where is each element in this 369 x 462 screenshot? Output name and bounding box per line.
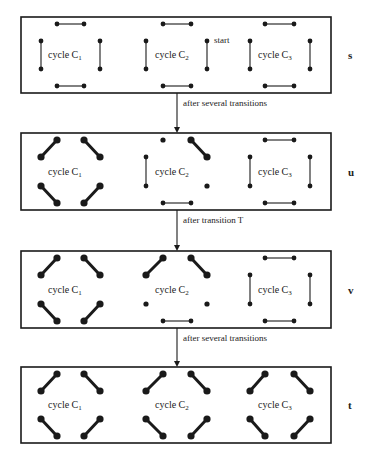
vertex-dot	[53, 370, 60, 377]
vertex-dot	[55, 22, 60, 27]
vertex-dot	[96, 153, 103, 160]
cycle-2: cycle C2	[144, 22, 210, 89]
vertex-dot	[96, 271, 103, 278]
vertex-dot	[96, 300, 103, 307]
vertex-dot	[205, 67, 210, 72]
cycle-3: cycle C3	[248, 22, 313, 89]
vertex-dot	[189, 319, 194, 324]
vertex-dot	[189, 22, 194, 27]
cycle-label: cycle C2	[155, 284, 189, 297]
cycle-label: cycle C1	[48, 399, 82, 412]
vertex-dot	[205, 39, 210, 44]
arrowhead-icon	[174, 127, 180, 133]
vertex-dot	[263, 319, 268, 324]
vertex-dot	[292, 138, 297, 143]
state-panel-u: cycle C1cycle C2cycle C3u	[21, 133, 354, 210]
vertex-dot	[80, 254, 87, 261]
vertex-dot	[39, 39, 44, 44]
vertex-dot	[80, 432, 87, 439]
vertex-dot	[161, 22, 166, 27]
vertex-dot	[37, 182, 44, 189]
vertex-dot	[53, 317, 60, 324]
state-label-u: u	[348, 166, 354, 178]
vertex-dot	[290, 432, 297, 439]
vertex-dot	[80, 317, 87, 324]
vertex-dot	[160, 137, 165, 142]
transition-label: after transition T	[183, 215, 244, 225]
start-annotation: start	[214, 35, 230, 45]
vertex-dot	[261, 432, 268, 439]
vertex-dot	[82, 22, 87, 27]
vertex-dot	[53, 432, 60, 439]
vertex-dot	[142, 415, 149, 422]
cycle-1: cycle C1	[37, 254, 103, 324]
vertex-dot	[308, 184, 313, 189]
vertex-dot	[144, 155, 149, 160]
vertex-dot	[37, 153, 44, 160]
vertex-dot	[187, 136, 194, 143]
vertex-dot	[82, 84, 87, 89]
vertex-dot	[263, 256, 268, 261]
vertex-dot	[248, 67, 253, 72]
vertex-dot	[161, 201, 166, 206]
vertex-dot	[96, 182, 103, 189]
vertex-dot	[263, 138, 268, 143]
vertex-dot	[80, 199, 87, 206]
cycle-label: cycle C3	[258, 284, 292, 297]
vertex-dot	[203, 415, 210, 422]
vertex-dot	[53, 254, 60, 261]
vertex-dot	[37, 300, 44, 307]
matching-edge-thick	[146, 258, 163, 275]
cycle-1: cycle C1	[37, 370, 103, 439]
state-label-t: t	[348, 399, 352, 411]
vertex-dot	[37, 271, 44, 278]
vertex-dot	[308, 155, 313, 160]
vertex-dot	[80, 370, 87, 377]
cycle-3: cycle C3	[246, 370, 313, 439]
vertex-dot	[96, 415, 103, 422]
transition-arrow: after transition T	[174, 210, 244, 251]
vertex-dot	[306, 415, 313, 422]
vertex-dot	[144, 67, 149, 72]
state-label-v: v	[348, 284, 354, 296]
arrowhead-icon	[174, 361, 180, 367]
cycle-transition-diagram: cycle C1cycle C2cycle C3startscycle C1cy…	[0, 0, 369, 462]
vertex-dot	[37, 387, 44, 394]
state-label-s: s	[348, 49, 353, 61]
cycle-label: cycle C1	[48, 49, 82, 62]
matching-edge-thick	[146, 419, 163, 436]
cycle-label: cycle C3	[258, 49, 292, 62]
cycle-2: cycle C2	[144, 136, 211, 205]
vertex-dot	[290, 370, 297, 377]
transition-label: after several transitions	[183, 333, 267, 343]
vertex-dot	[161, 319, 166, 324]
arrowhead-icon	[174, 245, 180, 251]
vertex-dot	[203, 153, 210, 160]
vertex-dot	[261, 370, 268, 377]
cycle-1: cycle C1	[37, 136, 103, 206]
cycle-3: cycle C3	[248, 256, 313, 324]
vertex-dot	[204, 183, 209, 188]
vertex-dot	[159, 432, 166, 439]
cycle-label: cycle C2	[155, 49, 189, 62]
vertex-dot	[246, 415, 253, 422]
transition-arrow: after several transitions	[174, 93, 267, 133]
matching-edge-thick	[146, 374, 163, 391]
vertex-dot	[292, 319, 297, 324]
state-panel-t: cycle C1cycle C2cycle C3t	[21, 367, 352, 443]
vertex-dot	[204, 301, 209, 306]
vertex-dot	[159, 254, 166, 261]
vertex-dot	[142, 271, 149, 278]
vertex-dot	[37, 415, 44, 422]
vertex-dot	[98, 39, 103, 44]
vertex-dot	[53, 199, 60, 206]
vertex-dot	[53, 136, 60, 143]
vertex-dot	[80, 136, 87, 143]
cycle-label: cycle C2	[155, 399, 189, 412]
vertex-dot	[292, 256, 297, 261]
vertex-dot	[308, 67, 313, 72]
state-panel-v: cycle C1cycle C2cycle C3v	[21, 251, 354, 328]
vertex-dot	[248, 155, 253, 160]
vertex-dot	[187, 432, 194, 439]
vertex-dot	[246, 387, 253, 394]
